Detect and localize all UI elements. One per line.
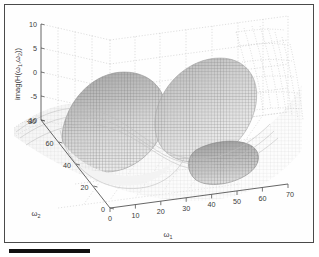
omega2-tick-label: 0 — [101, 205, 105, 214]
omega1-tick-label: 20 — [157, 207, 165, 216]
z-axis-ticks — [41, 24, 45, 121]
omega1-tick-label: 70 — [286, 190, 294, 199]
omega2-tick-label: 40 — [63, 161, 71, 170]
mesh-surface — [0, 26, 319, 220]
omega1-axis-label-subscript: 1 — [169, 234, 172, 240]
figure-root: 10 5 0 -5 -10 80 60 40 20 0 — [0, 0, 319, 257]
omega1-tick-label: 30 — [182, 204, 190, 213]
z-tick-label: 0 — [33, 68, 37, 77]
z-axis-label-suffix: )) — [13, 47, 22, 53]
omega1-tick-label: 60 — [258, 194, 266, 203]
omega2-tick-label: 60 — [46, 139, 54, 148]
svg-text:ω2: ω2 — [32, 209, 41, 219]
omega1-tick-label: 50 — [233, 197, 241, 206]
omega1-tick-label: 0 — [108, 214, 112, 223]
z-tick-label: 5 — [33, 44, 37, 53]
z-tick-label: 10 — [29, 20, 37, 29]
z-axis-label: imag(H(ω1,ω2)) — [13, 47, 23, 100]
omega2-axis-label-subscript: 2 — [37, 213, 40, 219]
svg-text:ω1: ω1 — [164, 230, 173, 240]
caption-rule — [9, 249, 90, 253]
svg-text:imag(H(ω1,ω2)): imag(H(ω1,ω2)) — [13, 47, 23, 100]
z-axis-label-prefix: imag(H( — [13, 73, 22, 100]
omega2-tick-label: 20 — [81, 183, 89, 192]
omega2-tick-label: 80 — [28, 117, 36, 126]
z-tick-label: -5 — [31, 92, 37, 101]
surface-plot: 10 5 0 -5 -10 80 60 40 20 0 — [0, 0, 319, 257]
omega1-tick-label: 10 — [131, 211, 139, 220]
omega2-axis-label: ω2 — [32, 209, 41, 219]
z-axis-tick-labels: 10 5 0 -5 -10 — [27, 20, 37, 125]
omega1-axis-label: ω1 — [164, 230, 173, 240]
omega1-tick-label: 40 — [208, 200, 216, 209]
